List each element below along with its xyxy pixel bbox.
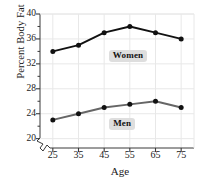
axis-lines [37,14,194,151]
series-label-men: Men [109,118,135,130]
x-axis-title: Age [40,165,200,177]
plot-area [0,0,202,184]
axis-ticks [36,14,181,152]
series-label-women: Women [109,50,148,62]
chart-container: Percent Body Fat 202428323640 2535455565… [0,0,202,184]
